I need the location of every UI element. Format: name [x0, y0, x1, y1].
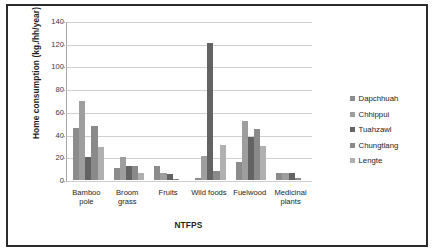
y-tick-mark: [62, 158, 65, 159]
legend-item[interactable]: Dapchhuah: [350, 91, 434, 107]
bar: [98, 147, 104, 180]
gridline: [67, 181, 312, 182]
legend-label: Tuahzawl: [359, 125, 392, 134]
y-tick-mark: [62, 136, 65, 137]
x-tick-label: Broom grass: [107, 188, 148, 207]
bar: [220, 145, 226, 180]
chart-frame: Home consumption (kg./hh/year) 140120100…: [6, 4, 428, 247]
y-tick-mark: [62, 90, 65, 91]
bar: [295, 178, 301, 180]
plot-area: [66, 22, 311, 182]
bar-group: [109, 21, 150, 180]
legend-label: Dapchhuah: [359, 94, 399, 103]
y-tick-mark: [62, 22, 65, 23]
y-tick-label: 20: [38, 154, 64, 162]
legend-swatch-icon: [350, 143, 355, 148]
x-axis-title: NTFPS: [66, 220, 311, 230]
bar-group: [271, 21, 312, 180]
y-tick-label: 40: [38, 132, 64, 140]
bar-group: [231, 21, 272, 180]
legend-swatch-icon: [350, 96, 355, 101]
y-tick-mark: [62, 45, 65, 46]
bar-group: [190, 21, 231, 180]
x-tick-label: Medicinal plants: [270, 188, 311, 207]
legend-swatch-icon: [350, 158, 355, 163]
bar-group: [68, 21, 109, 180]
legend-item[interactable]: Chhippui: [350, 107, 434, 123]
legend-swatch-icon: [350, 127, 355, 132]
legend-label: Chungtlang: [359, 141, 399, 150]
y-tick-label: 0: [38, 177, 64, 185]
bar: [207, 43, 213, 180]
bar-group: [149, 21, 190, 180]
y-axis-tick-labels: 140120100806040200: [34, 22, 64, 187]
legend: DapchhuahChhippuiTuahzawlChungtlangLengt…: [350, 91, 434, 169]
legend-item[interactable]: Lengte: [350, 153, 434, 169]
bar: [260, 146, 266, 180]
x-axis-tick-labels: Bamboo poleBroom grassFruitsWild foodsFu…: [66, 188, 311, 207]
y-tick-mark: [62, 181, 65, 182]
legend-swatch-icon: [350, 112, 355, 117]
y-tick-mark: [62, 113, 65, 114]
x-tick-label: Fuelwood: [229, 188, 270, 207]
legend-label: Chhippui: [359, 110, 390, 119]
y-tick-label: 80: [38, 86, 64, 94]
bar: [173, 179, 179, 180]
y-tick-label: 120: [38, 41, 64, 49]
y-tick-label: 100: [38, 63, 64, 71]
chart-screenshot: Home consumption (kg./hh/year) 140120100…: [0, 0, 434, 251]
bar-groups: [68, 21, 312, 180]
legend-item[interactable]: Tuahzawl: [350, 122, 434, 138]
legend-label: Lengte: [359, 156, 383, 165]
x-tick-label: Wild foods: [188, 188, 229, 207]
plot-wrap: [66, 22, 311, 187]
y-tick-label: 60: [38, 109, 64, 117]
y-tick-mark: [62, 67, 65, 68]
x-tick-label: Fruits: [148, 188, 189, 207]
x-tick-label: Bamboo pole: [66, 188, 107, 207]
legend-item[interactable]: Chungtlang: [350, 138, 434, 154]
y-tick-label: 140: [38, 18, 64, 26]
bar: [138, 173, 144, 180]
